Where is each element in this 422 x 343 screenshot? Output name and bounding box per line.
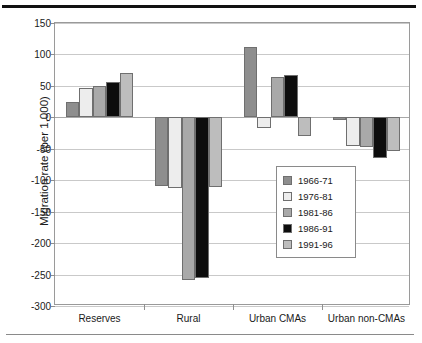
y-tick-label: -300	[31, 301, 51, 312]
category-separator	[322, 304, 323, 310]
legend-swatch-icon	[283, 208, 292, 217]
y-tick-mark	[51, 243, 55, 244]
legend-item-1986-91[interactable]: 1986-91	[283, 220, 349, 236]
figure-container: Migration rate (per 1,000) 150100500-50-…	[0, 0, 422, 343]
bar-urban-non-cmas-1986-91	[373, 117, 387, 158]
bar-rural-1981-86	[182, 117, 196, 279]
legend-item-label: 1966-71	[298, 175, 333, 186]
gridline-100	[55, 54, 409, 55]
x-axis-label-reserves: Reserves	[78, 313, 120, 324]
gridline--300	[55, 306, 409, 307]
gridline--50	[55, 149, 409, 150]
y-tick-label: 0	[45, 112, 51, 123]
x-axis-label-rural: Rural	[177, 313, 201, 324]
y-tick-mark	[51, 149, 55, 150]
legend-item-label: 1981-86	[298, 207, 333, 218]
bar-reserves-1981-86	[93, 86, 107, 117]
bar-urban-cmas-1981-86	[271, 77, 285, 117]
y-tick-label: -150	[31, 206, 51, 217]
x-axis-label-urban-non-cmas: Urban non-CMAs	[328, 313, 405, 324]
y-tick-mark	[51, 212, 55, 213]
bar-urban-non-cmas-1966-71	[333, 117, 347, 120]
bar-rural-1976-81	[168, 117, 182, 187]
bar-urban-cmas-1976-81	[257, 117, 271, 128]
bottom-divider-rule	[6, 334, 414, 335]
legend-item-1981-86[interactable]: 1981-86	[283, 204, 349, 220]
legend-item-label: 1976-81	[298, 191, 333, 202]
bar-reserves-1976-81	[79, 88, 93, 117]
bar-urban-non-cmas-1976-81	[346, 117, 360, 145]
y-tick-mark	[51, 180, 55, 181]
category-separator	[233, 304, 234, 310]
y-tick-label: 50	[40, 80, 51, 91]
bar-reserves-1966-71	[66, 102, 80, 117]
legend-swatch-icon	[283, 176, 292, 185]
y-tick-mark	[51, 306, 55, 307]
y-tick-label: -100	[31, 175, 51, 186]
category-separator	[144, 304, 145, 310]
y-tick-mark	[51, 54, 55, 55]
chart-legend: 1966-711976-811981-861986-911991-96	[276, 166, 356, 258]
y-tick-mark	[51, 117, 55, 118]
legend-item-1991-96[interactable]: 1991-96	[283, 236, 349, 252]
y-tick-label: 100	[34, 49, 51, 60]
bar-rural-1966-71	[155, 117, 169, 186]
bar-urban-non-cmas-1991-96	[387, 117, 401, 151]
top-divider-rule	[2, 5, 416, 8]
bar-urban-cmas-1991-96	[298, 117, 312, 136]
bar-urban-cmas-1986-91	[284, 75, 298, 117]
bar-rural-1986-91	[195, 117, 209, 277]
plot-area: 150100500-50-100-150-200-250-300 Reserve…	[54, 22, 410, 305]
y-tick-label: -50	[37, 143, 51, 154]
bar-urban-cmas-1966-71	[244, 47, 258, 117]
bar-rural-1991-96	[209, 117, 223, 186]
y-tick-label: 150	[34, 18, 51, 29]
y-tick-mark	[51, 86, 55, 87]
gridline--250	[55, 275, 409, 276]
legend-swatch-icon	[283, 240, 292, 249]
legend-swatch-icon	[283, 224, 292, 233]
bar-urban-non-cmas-1981-86	[360, 117, 374, 147]
x-axis-label-urban-cmas: Urban CMAs	[249, 313, 306, 324]
legend-item-1966-71[interactable]: 1966-71	[283, 172, 349, 188]
y-tick-mark	[51, 275, 55, 276]
bar-reserves-1991-96	[120, 73, 134, 118]
y-tick-label: -200	[31, 238, 51, 249]
gridline-150	[55, 23, 409, 24]
y-tick-label: -250	[31, 269, 51, 280]
bar-reserves-1986-91	[106, 82, 120, 117]
legend-item-label: 1986-91	[298, 223, 333, 234]
legend-item-label: 1991-96	[298, 239, 333, 250]
legend-swatch-icon	[283, 192, 292, 201]
legend-item-1976-81[interactable]: 1976-81	[283, 188, 349, 204]
y-tick-mark	[51, 23, 55, 24]
